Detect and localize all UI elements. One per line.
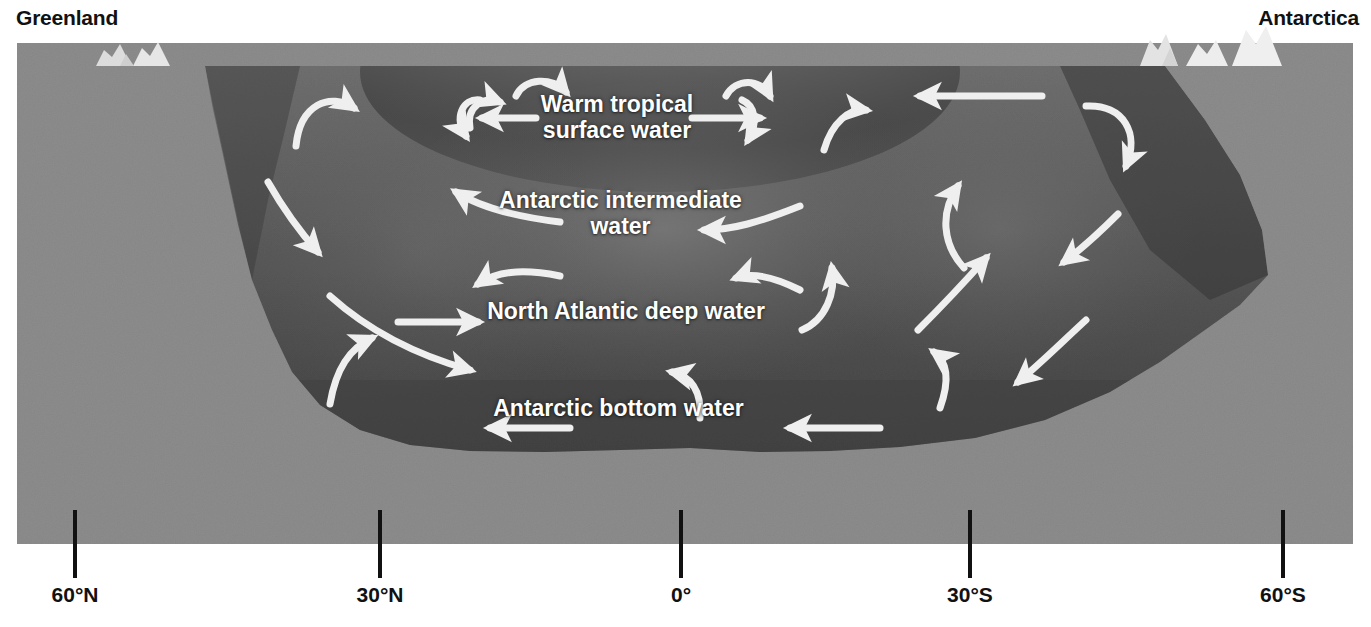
axis-tick-label: 30°S [947,583,993,607]
ocean-cross-section-svg [0,0,1371,627]
axis-tick-label: 30°N [357,583,404,607]
figure-canvas: Greenland Antarctica Warm tropical surfa… [0,0,1371,627]
region-label-greenland: Greenland [16,6,118,30]
region-label-antarctica: Antarctica [1258,6,1359,30]
axis-tick-label: 60°N [52,583,99,607]
axis-tick-label: 60°S [1260,583,1306,607]
axis-tick-label: 0° [671,583,691,607]
